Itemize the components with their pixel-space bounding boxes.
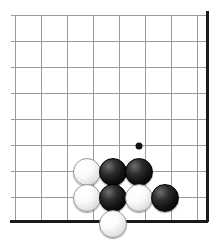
go-diagram — [0, 0, 222, 245]
white-stone[interactable] — [73, 158, 101, 186]
black-stone[interactable] — [99, 158, 127, 186]
white-stone[interactable] — [125, 184, 153, 212]
black-stone[interactable] — [125, 158, 153, 186]
black-stone[interactable] — [99, 184, 127, 212]
star-point-marker — [136, 143, 143, 150]
black-stone[interactable] — [151, 184, 179, 212]
white-stone[interactable] — [99, 210, 127, 238]
white-stone[interactable] — [73, 184, 101, 212]
